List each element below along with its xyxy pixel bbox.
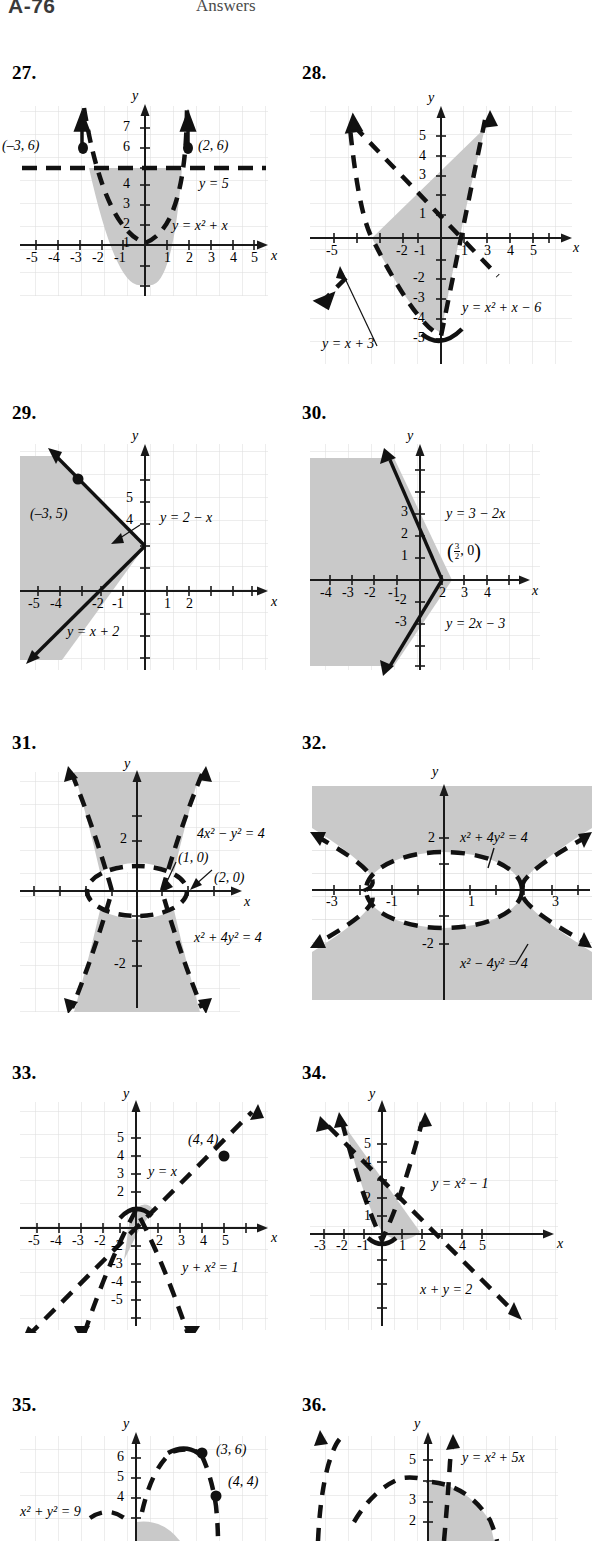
ytick-35-6: 6 [117, 1449, 124, 1465]
curve-label-31-ellipse: x² + 4y² = 4 [194, 930, 262, 946]
ytick-28-n3: -3 [413, 290, 425, 306]
curve-label-29-b: y = x + 2 [67, 624, 119, 640]
axis-label-29-x: x [271, 594, 277, 610]
figure-28: x y y = x² + x − 6 y = x + 3 5 4 3 1 -2 … [302, 88, 580, 376]
axis-label-30-x: x [532, 583, 538, 599]
xtick-34-1: 1 [399, 1238, 406, 1254]
ytick-32-n2: -2 [422, 936, 434, 952]
xtick-34-2: 2 [419, 1238, 426, 1254]
ytick-31-2: 2 [120, 831, 127, 847]
ytick-28-4: 4 [419, 148, 426, 164]
point-label-27-b: (2, 6) [198, 138, 228, 154]
xtick-33-2: 2 [156, 1233, 163, 1249]
xtick-28-n2: -2 [396, 243, 408, 259]
point-label-31-a: (1, 0) [178, 850, 208, 866]
ytick-27-1: 1 [123, 235, 130, 251]
curve-label-33-parabola: y + x² = 1 [182, 1260, 239, 1276]
ytick-29-4: 4 [126, 512, 133, 528]
figure-35: y (3, 6) (4, 4) x² + y² = 9 6 5 4 [12, 1426, 278, 1541]
ytick-33-5: 5 [117, 1130, 124, 1146]
axis-label-35-y: y [123, 1416, 129, 1432]
point-label-30: (32, 0) [447, 540, 481, 563]
ytick-33-3: 3 [117, 1166, 124, 1182]
xtick-30-2: 2 [439, 585, 446, 601]
curve-label-27-parabola: y = x² + x [172, 218, 228, 234]
curve-label-33-line: y = x [148, 1164, 177, 1180]
ytick-27-4: 4 [123, 176, 130, 192]
curve-label-34-line: x + y = 2 [420, 1282, 472, 1298]
curve-label-31-hyperbola: 4x² − y² = 4 [197, 826, 265, 842]
xtick-28-n5: -5 [326, 243, 338, 259]
point-label-31-b: (2, 0) [214, 870, 244, 886]
xtick-27-5: 5 [251, 250, 258, 266]
ytick-30-1: 1 [401, 548, 408, 564]
ytick-33-n3: -3 [111, 1256, 123, 1272]
xtick-29-1: 1 [164, 596, 171, 612]
figure-33: x y (4, 4) y = x y + x² = 1 5 4 3 2 -2 -… [12, 1088, 278, 1333]
xtick-29-2: 2 [186, 596, 193, 612]
ytick-30-3: 3 [401, 504, 408, 520]
xtick-30-n3: -3 [342, 585, 354, 601]
figure-36: y y = x² + 5x 5 3 2 [302, 1426, 568, 1541]
curve-label-35-circle: x² + y² = 9 [20, 1504, 81, 1520]
xtick-29-n4: -4 [50, 596, 62, 612]
axis-label-27-x: x [271, 248, 277, 264]
exercise-number-29: 29. [12, 402, 37, 424]
xtick-30-n4: -4 [320, 585, 332, 601]
curve-label-28-line: y = x + 3 [322, 336, 374, 352]
xtick-27-n5: -5 [26, 250, 38, 266]
curve-label-29-a: y = 2 − x [160, 510, 212, 526]
exercise-number-30: 30. [302, 402, 327, 424]
axis-label-33-x: x [271, 1230, 277, 1246]
axis-label-31-x: x [244, 894, 250, 910]
xtick-28-5: 5 [530, 243, 537, 259]
ytick-33-4: 4 [117, 1148, 124, 1164]
ytick-36-2: 2 [409, 1513, 416, 1529]
folio-number: A-76 [8, 0, 56, 18]
figure-27: (–3, 6) (2, 6) y = 5 y = x² + x x y 7 6 … [12, 88, 278, 303]
ytick-27-3: 3 [123, 196, 130, 212]
ytick-35-5: 5 [117, 1469, 124, 1485]
curve-label-28-parabola: y = x² + x − 6 [462, 300, 541, 316]
curve-label-27-line: y = 5 [199, 176, 229, 192]
axis-label-30-y: y [407, 428, 413, 444]
ytick-33-n2: -2 [111, 1238, 123, 1254]
xtick-34-4: 4 [459, 1238, 466, 1254]
xtick-29-n5: -5 [28, 596, 40, 612]
ytick-28-1: 1 [419, 206, 426, 222]
xtick-33-3: 3 [178, 1233, 185, 1249]
xtick-33-n4: -4 [50, 1233, 62, 1249]
figure-32: y x² + 4y² = 4 x² − 4y² = 4 2 -2 -3 -1 1… [302, 758, 592, 1013]
curve-label-32-ellipse: x² + 4y² = 4 [460, 830, 528, 846]
xtick-27-3: 3 [208, 250, 215, 266]
exercise-number-27: 27. [12, 62, 37, 84]
ytick-35-4: 4 [117, 1489, 124, 1505]
xtick-33-n2: -2 [94, 1233, 106, 1249]
ytick-28-n5: -5 [413, 330, 425, 346]
xtick-32-3: 3 [552, 894, 559, 910]
exercise-number-31: 31. [12, 732, 37, 754]
ytick-27-2: 2 [123, 216, 130, 232]
xtick-27-n2: -2 [92, 250, 104, 266]
xtick-28-3: 3 [484, 243, 491, 259]
xtick-27-n4: -4 [48, 250, 60, 266]
xtick-30-4: 4 [484, 585, 491, 601]
ytick-33-2: 2 [117, 1184, 124, 1200]
point-label-35-b: (4, 4) [228, 1474, 258, 1490]
ytick-33-n5: -5 [111, 1292, 123, 1308]
figure-31: x y 4x² − y² = 4 x² + 4y² = 4 (1, 0) (2,… [12, 758, 278, 1013]
exercise-number-33: 33. [12, 1062, 37, 1084]
axis-label-33-y: y [123, 1086, 129, 1102]
curve-label-30-a: y = 3 − 2x [446, 506, 505, 522]
xtick-27-n1: -1 [114, 250, 126, 266]
point-label-33: (4, 4) [188, 1132, 218, 1148]
xtick-32-n3: -3 [326, 894, 338, 910]
ytick-28-n2: -2 [413, 270, 425, 286]
ytick-27-7: 7 [123, 119, 130, 135]
exercise-number-28: 28. [302, 62, 327, 84]
exercise-number-35: 35. [12, 1394, 37, 1416]
axis-label-29-y: y [132, 428, 138, 444]
ytick-28-5: 5 [419, 128, 426, 144]
ytick-29-5: 5 [126, 490, 133, 506]
ytick-28-n4: -4 [413, 310, 425, 326]
